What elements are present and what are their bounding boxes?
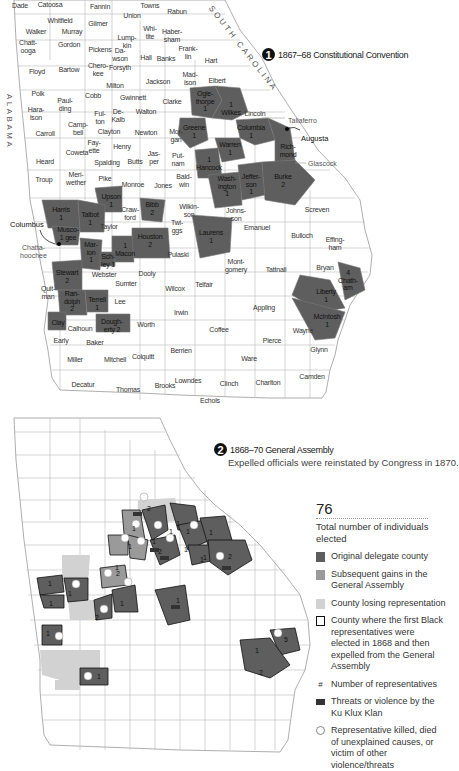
county-label: Milton: [106, 82, 123, 90]
county-label: Haber- sham: [162, 28, 182, 43]
county-label: Mor- gan: [169, 128, 183, 143]
county-label: Fay- ette: [87, 139, 100, 154]
county-label: Calhoun: [68, 325, 93, 333]
county-label: Glynn: [310, 346, 327, 354]
county-label: Bald- win: [176, 173, 191, 188]
legend-label: County losing representation: [331, 598, 446, 610]
county-label: Talbot 1: [81, 211, 98, 226]
representative-count: 2: [147, 505, 151, 512]
representative-count: 1: [209, 529, 213, 536]
county-label: Ful- ton: [94, 110, 105, 125]
map-2-title: 2 1868–70 General Assembly: [214, 443, 333, 456]
callout-glascock: Glascock: [308, 160, 337, 167]
county-label: Hara- lson: [28, 106, 45, 121]
county-label: Sch- ley 1: [101, 253, 115, 268]
representative-count: 1: [97, 673, 101, 680]
county-label: Harris 1: [52, 206, 69, 221]
county-label: Baker: [86, 339, 103, 347]
county-label: Gordon: [58, 41, 80, 49]
county-label: Screven: [305, 206, 329, 214]
county-label: Ran- dolph 2: [64, 290, 80, 313]
county-label: Decatur: [71, 381, 94, 389]
legend-item-losing: County losing representation: [316, 598, 446, 610]
legend-item-killed: Representative killed, died of unexplain…: [316, 725, 446, 771]
map-2-title-text: 1868–70 General Assembly: [230, 445, 333, 455]
legend-label: Original delegate county: [331, 551, 428, 563]
county-label: Clayton: [98, 128, 120, 136]
representative-count: 1: [176, 597, 180, 604]
representative-count: 2: [158, 548, 162, 555]
county-label: Burke 2: [274, 173, 291, 188]
county-label: Jeffer- son 1: [242, 173, 260, 196]
county-label: Lee: [114, 298, 125, 306]
county-label: Meri- wether: [66, 171, 86, 186]
legend-item-gains: Subsequent gains in the General Assembly: [316, 569, 446, 592]
county-label: Spalding: [94, 159, 120, 167]
swatch-gains-icon: [316, 570, 325, 580]
county-label: Pierce: [263, 337, 282, 345]
county-label: Wayne: [293, 327, 314, 335]
representative-count: 2: [95, 614, 99, 621]
swatch-outline-icon: [316, 616, 325, 626]
county-label: Butts: [128, 158, 143, 166]
county-label: Rich- mond: [280, 143, 297, 158]
county-label: 1 Macon: [115, 242, 135, 257]
county-label: Terrell 1: [88, 296, 106, 311]
county-label: Telfair: [195, 281, 212, 289]
county-label: Elbert: [208, 77, 225, 85]
representative-count: 5: [284, 636, 288, 643]
county-label: Mad- ison: [182, 71, 197, 86]
county-label: Laurens 1: [199, 229, 223, 244]
representative-count: 1: [68, 590, 72, 597]
county-label: Clay: [51, 319, 64, 327]
county-label: Whitfield: [47, 17, 72, 25]
county-label: Clinch: [220, 380, 238, 388]
legend-item-original: Original delegate county: [316, 551, 446, 563]
representative-count: 1: [132, 525, 136, 532]
county-label: McIntosh 1: [314, 313, 341, 328]
county-label: Mont- gomery: [225, 258, 247, 273]
county-label: Paul- ding: [57, 97, 72, 112]
representative-count: 1: [46, 630, 50, 637]
county-label: Polk: [32, 90, 45, 98]
county-label: Frank- lin: [178, 45, 197, 60]
county-label: Chero- kee: [88, 62, 108, 77]
representative-count: 2: [116, 570, 120, 577]
county-label: Echols: [200, 397, 220, 405]
county-label: Thomas: [116, 386, 140, 394]
county-label: De- Kalb: [111, 108, 124, 123]
legend-label: Representative killed, died of unexplain…: [331, 725, 446, 771]
city-columbus: Columbus: [10, 220, 44, 229]
county-label: Quit- man: [41, 285, 55, 300]
county-label: Charlton: [256, 379, 281, 387]
total-count: 76: [316, 500, 428, 519]
representative-count: 2: [228, 553, 232, 560]
county-label: Clarke: [162, 98, 181, 106]
county-label: Henry: [113, 143, 131, 151]
legend-item-number: # Number of representatives: [316, 679, 446, 691]
map-1-title: 1 1867–68 Constitutional Convention: [262, 48, 408, 61]
county-label: Forsyth: [109, 64, 131, 72]
county-label: Mitchell: [104, 356, 126, 364]
county-label: Hart: [205, 57, 217, 65]
county-label: Heard: [36, 158, 54, 166]
county-label: Irwin: [174, 309, 188, 317]
county-label: Da- wson: [112, 47, 128, 62]
county-label: Coffee: [209, 326, 228, 334]
county-label: Rabun: [167, 8, 187, 16]
county-label: Johns- son: [226, 207, 246, 222]
city-augusta: Augusta: [301, 134, 329, 143]
county-label: Craw- ford: [121, 206, 139, 221]
county-label: Banks: [157, 55, 175, 63]
representative-count: 1: [184, 546, 188, 553]
hash-icon: #: [316, 680, 325, 690]
representative-count: 1: [49, 600, 53, 607]
county-label: Camp- bell: [68, 121, 88, 136]
county-label: Towns: [141, 2, 160, 10]
county-label: Jackson: [146, 78, 170, 86]
county-label: Bartow: [59, 66, 80, 74]
county-label: Early: [54, 337, 69, 345]
county-label: Dade: [12, 2, 28, 10]
county-label: Gwinnett: [120, 94, 146, 102]
county-label: Mar- ion 1: [84, 241, 98, 264]
